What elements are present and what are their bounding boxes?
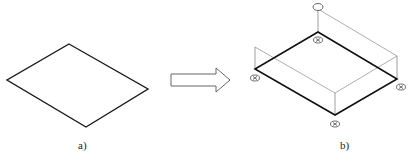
plate-b-parallelogram xyxy=(255,32,397,115)
panel-b-frame xyxy=(251,4,406,128)
support-left-icon xyxy=(251,75,260,81)
support-right-icon xyxy=(397,84,406,90)
panel-a-label: a) xyxy=(78,139,87,151)
transform-arrow-icon xyxy=(171,68,230,92)
posts xyxy=(255,9,397,115)
support-bottom-icon xyxy=(331,121,340,127)
top-marker-ellipse-icon xyxy=(313,4,323,11)
frame-edge xyxy=(318,9,397,56)
panel-b-label: b) xyxy=(340,139,349,151)
support-top-icon xyxy=(314,37,323,43)
plate-a-parallelogram xyxy=(7,44,148,127)
frame-edge xyxy=(255,47,397,93)
figure: a) b) xyxy=(0,0,409,163)
supports xyxy=(251,37,406,127)
